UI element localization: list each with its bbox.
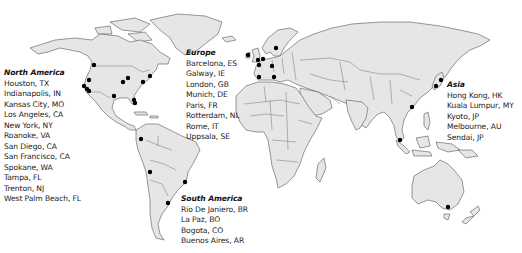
marker-roanoke[interactable] — [121, 80, 125, 84]
marker-kansas-city[interactable] — [87, 78, 91, 82]
marker-spokane[interactable] — [92, 63, 96, 67]
city-label: Galway, IE — [186, 69, 240, 80]
marker-west-palm-beach[interactable] — [133, 101, 137, 105]
city-label: Kyoto, JP — [447, 112, 514, 123]
marker-rome[interactable] — [272, 75, 276, 79]
south-america-list: South America Rio De Janiero, BR La Paz,… — [181, 194, 248, 247]
iceland — [222, 36, 236, 42]
marker-uppsala[interactable] — [274, 46, 278, 50]
city-label: Rio De Janiero, BR — [181, 205, 248, 216]
city-label: Trenton, NJ — [4, 184, 81, 195]
marker-kyoto[interactable] — [434, 84, 438, 88]
new-zealand — [462, 206, 480, 224]
tasmania — [444, 214, 450, 220]
city-label: Tampa, FL — [4, 173, 81, 184]
marker-houston[interactable] — [112, 94, 116, 98]
marker-new-york[interactable] — [148, 74, 152, 78]
marker-london[interactable] — [256, 58, 260, 62]
city-label: Rotterdam, NL — [186, 111, 240, 122]
city-label: Roanoke, VA — [4, 131, 81, 142]
region-title-europe: Europe — [186, 48, 240, 59]
city-label: New York, NY — [4, 121, 81, 132]
marker-rio-de-janiero[interactable] — [183, 180, 187, 184]
city-label: Rome, IT — [186, 122, 240, 133]
city-label: San Diego, CA — [4, 142, 81, 153]
papua — [458, 150, 478, 158]
marker-la-paz[interactable] — [148, 170, 152, 174]
city-label: Sendai, JP — [447, 133, 514, 144]
city-label: Indianapolis, IN — [4, 89, 81, 100]
city-label: Los Angeles, CA — [4, 110, 81, 121]
marker-kuala-lumpur[interactable] — [398, 138, 402, 142]
region-title-south-america: South America — [181, 194, 248, 205]
marker-barcelona[interactable] — [257, 75, 261, 79]
city-label: San Francisco, CA — [4, 152, 81, 163]
city-label: Munich, DE — [186, 90, 240, 101]
marker-munich[interactable] — [270, 64, 274, 68]
caribbean — [134, 112, 158, 118]
city-label: Spokane, WA — [4, 163, 81, 174]
asia-list: Asia Hong Kong, HK Kuala Lumpur, MY Kyot… — [447, 80, 514, 143]
city-label: Kuala Lumpur, MY — [447, 101, 514, 112]
city-label: Barcelona, ES — [186, 59, 240, 70]
marker-paris[interactable] — [257, 63, 261, 67]
city-label: Melbourne, AU — [447, 122, 514, 133]
marker-trenton[interactable] — [141, 80, 145, 84]
marker-rotterdam[interactable] — [261, 57, 265, 61]
city-label: Paris, FR — [186, 101, 240, 112]
europe-list: Europe Barcelona, ES Galway, IE London, … — [186, 48, 240, 143]
australia — [412, 160, 464, 210]
city-label: London, GB — [186, 80, 240, 91]
marker-galway[interactable] — [246, 53, 250, 57]
city-label: Hong Kong, HK — [447, 91, 514, 102]
city-label: Buenos Aires, AR — [181, 236, 248, 247]
marker-indianapolis[interactable] — [126, 76, 130, 80]
north-america-list: North America Houston, TX Indianapolis, … — [4, 68, 81, 205]
marker-melbourne[interactable] — [446, 205, 450, 209]
city-label: La Paz, BO — [181, 215, 248, 226]
marker-bogota[interactable] — [139, 137, 143, 141]
city-label: West Palm Beach, FL — [4, 194, 81, 205]
region-title-north-america: North America — [4, 68, 81, 79]
city-label: Bogota, CO — [181, 226, 248, 237]
city-label: Uppsala, SE — [186, 132, 240, 143]
philippines — [424, 112, 430, 130]
marker-buenos-aires[interactable] — [166, 201, 170, 205]
marker-hong-kong[interactable] — [410, 105, 414, 109]
marker-san-diego[interactable] — [87, 89, 91, 93]
madagascar — [316, 158, 326, 182]
city-label: Kansas City, MO — [4, 100, 81, 111]
marker-sendai[interactable] — [439, 78, 443, 82]
region-title-asia: Asia — [447, 80, 514, 91]
city-label: Houston, TX — [4, 79, 81, 90]
